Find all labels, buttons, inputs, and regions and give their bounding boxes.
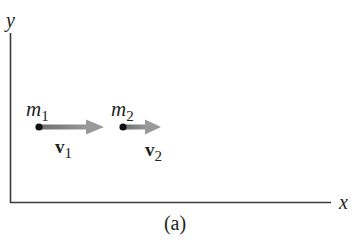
collision-diagram: y x m1 v1 m2 v2 (a) <box>0 0 364 250</box>
mass-1-label: m1 <box>26 97 49 124</box>
mass-1-dot <box>35 123 42 130</box>
mass-1: m1 v1 <box>26 97 104 161</box>
velocity-1-label: v1 <box>55 136 72 161</box>
axes: y x <box>4 9 348 213</box>
mass-2-dot <box>119 123 126 130</box>
mass-2-label: m2 <box>111 97 134 124</box>
velocity-2-label: v2 <box>145 139 162 164</box>
velocity-arrow-1 <box>40 120 104 135</box>
y-axis-label: y <box>4 9 15 32</box>
figure-caption: (a) <box>164 212 186 235</box>
mass-2: m2 v2 <box>111 97 162 164</box>
x-axis-label: x <box>338 191 348 213</box>
